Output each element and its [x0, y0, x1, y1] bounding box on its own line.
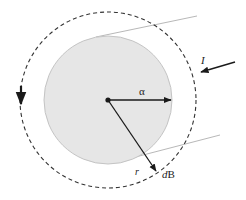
dB-symbol: B — [168, 168, 175, 180]
alpha-label: α — [139, 85, 145, 97]
magnetic-field-diagram: α r dB I — [0, 0, 246, 200]
current-label: I — [200, 54, 206, 66]
r-label: r — [135, 166, 139, 177]
current-arrow — [201, 62, 235, 72]
dB-label: dB — [162, 168, 175, 180]
wire-top-edge-line — [96, 16, 197, 37]
